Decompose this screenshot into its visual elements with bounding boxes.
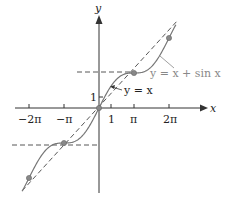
tick-label-pi: π [130, 113, 137, 126]
plot-area: y x −2π −π 1 π 2π 1 y = x + sin x y = x [0, 0, 225, 202]
x-axis-arrow-icon [200, 105, 208, 112]
tick-label-neg-2pi: −2π [18, 113, 41, 126]
y-axis-arrow-icon [96, 15, 103, 24]
line-label: y = x [123, 84, 153, 97]
curve-label: y = x + sin x [149, 67, 222, 80]
tick-label-one-x: 1 [108, 113, 115, 126]
x-axis-label: x [210, 102, 217, 115]
tick-label-neg-pi: −π [56, 113, 72, 126]
tick-label-2pi: 2π [163, 113, 177, 126]
tick-label-one-y: 1 [90, 91, 97, 104]
y-axis-label: y [94, 2, 102, 15]
